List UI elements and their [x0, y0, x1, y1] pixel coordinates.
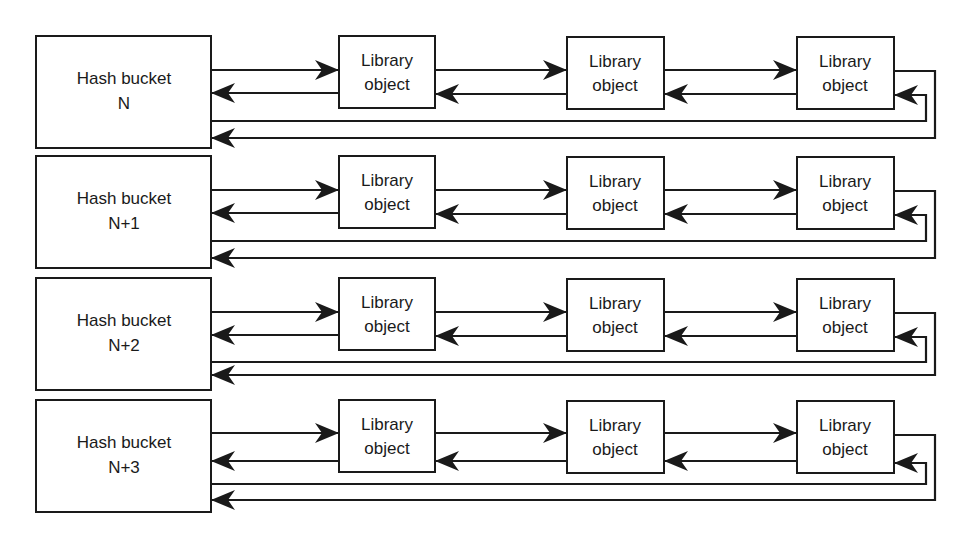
library-object: Library object	[797, 279, 894, 351]
svg-text:Hash bucket: Hash bucket	[77, 69, 172, 88]
svg-text:Library: Library	[589, 172, 641, 191]
library-object-line1: Library	[589, 416, 641, 435]
hash-chain-row-0: Hash bucket N Library object Library obj…	[36, 36, 935, 148]
hash-bucket-index: N+2	[108, 336, 140, 355]
library-object-line1: Library	[589, 172, 641, 191]
hash-bucket-index: N	[118, 94, 130, 113]
svg-text:object: object	[592, 76, 638, 95]
svg-text:Library: Library	[589, 294, 641, 313]
library-object-line2: object	[364, 195, 410, 214]
library-object-line1: Library	[589, 52, 641, 71]
hash-chain-row-3: Hash bucket N+3 Library object Library o…	[36, 400, 935, 512]
library-object-line2: object	[822, 440, 868, 459]
svg-text:Library: Library	[819, 416, 871, 435]
svg-text:Library: Library	[819, 52, 871, 71]
library-object-line1: Library	[589, 294, 641, 313]
svg-text:Hash bucket: Hash bucket	[77, 189, 172, 208]
svg-text:object: object	[364, 195, 410, 214]
library-object: Library object	[567, 279, 664, 351]
library-object-line2: object	[592, 196, 638, 215]
library-object-line1: Library	[361, 171, 413, 190]
hash-bucket-label: Hash bucket	[77, 189, 172, 208]
library-object-line2: object	[364, 75, 410, 94]
hash-bucket: Hash bucket N	[36, 36, 211, 148]
library-object-line1: Library	[819, 52, 871, 71]
svg-text:object: object	[822, 196, 868, 215]
library-object-line2: object	[822, 76, 868, 95]
library-object-line2: object	[822, 196, 868, 215]
hash-chain-row-1: Hash bucket N+1 Library object Library o…	[36, 156, 935, 268]
svg-text:Library: Library	[361, 51, 413, 70]
library-object: Library object	[797, 37, 894, 109]
svg-text:object: object	[822, 440, 868, 459]
svg-text:object: object	[822, 76, 868, 95]
library-object: Library object	[567, 37, 664, 109]
hash-bucket-index: N+3	[108, 458, 140, 477]
hash-bucket-diagram: Hash bucket N Library object Library obj…	[0, 0, 967, 541]
library-object: Library object	[797, 157, 894, 229]
hash-chain-row-2: Hash bucket N+2 Library object Library o…	[36, 278, 935, 390]
library-object-line2: object	[592, 440, 638, 459]
library-object-line1: Library	[819, 294, 871, 313]
library-object-line1: Library	[361, 51, 413, 70]
library-object-line2: object	[364, 317, 410, 336]
svg-text:object: object	[364, 75, 410, 94]
svg-text:Library: Library	[819, 172, 871, 191]
library-object-line1: Library	[361, 293, 413, 312]
library-object-line2: object	[592, 76, 638, 95]
library-object-line1: Library	[361, 415, 413, 434]
svg-text:object: object	[822, 318, 868, 337]
svg-text:Library: Library	[589, 52, 641, 71]
library-object-line2: object	[822, 318, 868, 337]
library-object: Library object	[339, 278, 435, 350]
svg-text:object: object	[364, 439, 410, 458]
library-object: Library object	[567, 157, 664, 229]
svg-text:N: N	[118, 94, 130, 113]
library-object-line2: object	[592, 318, 638, 337]
library-object: Library object	[567, 401, 664, 473]
library-object-line1: Library	[819, 172, 871, 191]
svg-text:Library: Library	[589, 416, 641, 435]
library-object: Library object	[339, 156, 435, 228]
svg-text:Library: Library	[361, 171, 413, 190]
svg-text:object: object	[364, 317, 410, 336]
svg-text:N+2: N+2	[108, 336, 140, 355]
svg-text:N+3: N+3	[108, 458, 140, 477]
hash-bucket-label: Hash bucket	[77, 433, 172, 452]
hash-bucket: Hash bucket N+2	[36, 278, 211, 390]
hash-bucket-index: N+1	[108, 214, 140, 233]
svg-text:Hash bucket: Hash bucket	[77, 433, 172, 452]
library-object: Library object	[339, 400, 435, 472]
library-object-line1: Library	[819, 416, 871, 435]
svg-text:N+1: N+1	[108, 214, 140, 233]
library-object: Library object	[339, 36, 435, 108]
svg-text:Library: Library	[361, 415, 413, 434]
library-object-line2: object	[364, 439, 410, 458]
svg-text:Hash bucket: Hash bucket	[77, 311, 172, 330]
svg-text:object: object	[592, 440, 638, 459]
svg-text:object: object	[592, 318, 638, 337]
library-object: Library object	[797, 401, 894, 473]
hash-bucket: Hash bucket N+3	[36, 400, 211, 512]
hash-bucket: Hash bucket N+1	[36, 156, 211, 268]
hash-bucket-label: Hash bucket	[77, 69, 172, 88]
svg-text:Library: Library	[819, 294, 871, 313]
hash-bucket-label: Hash bucket	[77, 311, 172, 330]
svg-text:object: object	[592, 196, 638, 215]
svg-text:Library: Library	[361, 293, 413, 312]
